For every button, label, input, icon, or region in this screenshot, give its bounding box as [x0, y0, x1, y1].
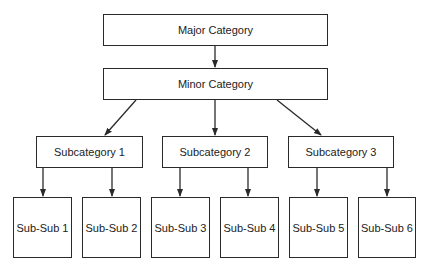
subcategory-box: Subcategory 3	[288, 136, 394, 168]
subsub-label: Sub-Sub 3	[155, 222, 207, 234]
subsub-box: Sub-Sub 2	[82, 197, 141, 258]
subsub-box: Sub-Sub 3	[151, 197, 210, 258]
major-category-label: Major Category	[178, 24, 253, 36]
subcategory-label: Subcategory 1	[54, 146, 125, 158]
subsub-label: Sub-Sub 5	[293, 222, 345, 234]
subsub-box: Sub-Sub 6	[358, 197, 416, 258]
subcategory-label: Subcategory 3	[306, 146, 377, 158]
major-category-box: Major Category	[103, 14, 328, 46]
subsub-label: Sub-Sub 4	[224, 222, 276, 234]
subsub-label: Sub-Sub 1	[17, 222, 69, 234]
subsub-label: Sub-Sub 2	[86, 222, 138, 234]
subsub-label: Sub-Sub 6	[361, 222, 413, 234]
subsub-box: Sub-Sub 4	[220, 197, 279, 258]
subcategory-label: Subcategory 2	[180, 146, 251, 158]
minor-category-box: Minor Category	[103, 68, 328, 100]
minor-category-label: Minor Category	[178, 78, 253, 90]
subsub-box: Sub-Sub 1	[13, 197, 72, 258]
subcategory-box: Subcategory 2	[162, 136, 268, 168]
subcategory-box: Subcategory 1	[36, 136, 143, 168]
subsub-box: Sub-Sub 5	[289, 197, 348, 258]
